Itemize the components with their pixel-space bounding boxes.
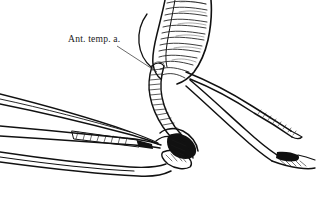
- label-ant-temp-a: Ant. temp. a.: [68, 33, 120, 44]
- anatomical-illustration: Ant. temp. a.: [0, 0, 316, 205]
- figure-container: Ant. temp. a.: [0, 0, 316, 205]
